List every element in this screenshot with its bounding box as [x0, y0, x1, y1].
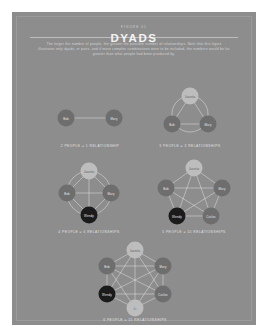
figure-eyebrow: FIGURE 01 — [12, 25, 256, 30]
person-node-wendy[interactable]: Wendy — [81, 207, 98, 224]
person-node-li[interactable]: Li — [127, 300, 144, 317]
person-node-bob[interactable]: Bob — [59, 185, 76, 202]
diagram-caption: 5 PEOPLE = 10 RELATIONSHIPS — [142, 230, 246, 234]
diagram-stage: JuanitaBobMaryWendy — [38, 160, 140, 226]
header-divider — [30, 37, 238, 38]
person-node-wendy[interactable]: Wendy — [99, 286, 116, 303]
relationship-edges — [40, 96, 140, 140]
diagram-stage: BobMary — [40, 96, 140, 140]
person-node-mary[interactable]: Mary — [103, 185, 120, 202]
figure-description: The larger the number of people, the gre… — [38, 42, 230, 57]
diagram-dyad-6: JuanitaBobMaryWendyCarlosLi6 PEOPLE = 15… — [82, 240, 188, 322]
poster-canvas: FIGURE 01 DYADS The larger the number of… — [12, 12, 256, 325]
diagram-stage: JuanitaBobMary — [140, 84, 240, 140]
diagram-dyad-5: JuanitaBobMaryWendyCarlos5 PEOPLE = 10 R… — [142, 158, 246, 234]
person-node-bob[interactable]: Bob — [164, 116, 181, 133]
person-node-bob[interactable]: Bob — [99, 258, 116, 275]
person-node-mary[interactable]: Mary — [200, 116, 217, 133]
person-node-juanita[interactable]: Juanita — [182, 88, 199, 105]
person-node-mary[interactable]: Mary — [155, 258, 172, 275]
person-node-wendy[interactable]: Wendy — [169, 208, 186, 225]
diagram-caption: 2 PEOPLE = 1 RELATIONSHIP — [40, 144, 140, 148]
person-node-juanita[interactable]: Juanita — [186, 160, 203, 177]
person-node-juanita[interactable]: Juanita — [81, 163, 98, 180]
person-node-carlos[interactable]: Carlos — [203, 208, 220, 225]
diagram-dyad-3: JuanitaBobMary3 PEOPLE = 3 RELATIONSHIPS — [140, 84, 240, 148]
diagram-dyad-2: BobMary2 PEOPLE = 1 RELATIONSHIP — [40, 96, 140, 148]
person-node-mary[interactable]: Mary — [214, 180, 231, 197]
diagram-stage: JuanitaBobMaryWendyCarlosLi — [82, 240, 188, 314]
person-node-mary[interactable]: Mary — [106, 110, 123, 127]
person-node-juanita[interactable]: Juanita — [127, 242, 144, 259]
diagram-caption: 3 PEOPLE = 3 RELATIONSHIPS — [140, 144, 240, 148]
person-node-carlos[interactable]: Carlos — [155, 286, 172, 303]
diagram-dyad-4: JuanitaBobMaryWendy4 PEOPLE = 6 RELATION… — [38, 160, 140, 234]
diagram-caption: 4 PEOPLE = 6 RELATIONSHIPS — [38, 230, 140, 234]
person-node-bob[interactable]: Bob — [58, 110, 75, 127]
person-node-bob[interactable]: Bob — [158, 180, 175, 197]
diagram-stage: JuanitaBobMaryWendyCarlos — [142, 158, 246, 226]
diagram-caption: 6 PEOPLE = 15 RELATIONSHIPS — [82, 318, 188, 322]
